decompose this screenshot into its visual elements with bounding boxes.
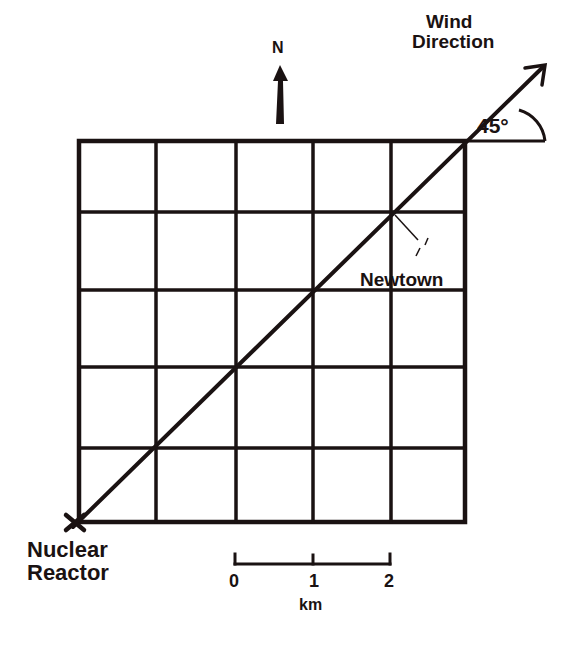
reactor-label-line1: Nuclear	[27, 538, 109, 561]
north-label: N	[272, 40, 284, 57]
wind-direction-arrow	[73, 65, 545, 527]
angle-label: 45°	[477, 115, 509, 137]
scale-unit-label: km	[299, 597, 322, 614]
wind-label-line2: Direction	[412, 32, 494, 52]
reactor-label-line2: Reactor	[27, 561, 109, 584]
nuclear-reactor-label: Nuclear Reactor	[27, 538, 109, 584]
newtown-pointer	[395, 215, 428, 256]
north-arrow-icon	[273, 65, 288, 124]
scale-tick-1: 1	[309, 572, 319, 591]
scale-tick-0: 0	[229, 572, 239, 591]
wind-direction-label: Wind Direction	[412, 12, 494, 52]
scale-bar	[235, 554, 390, 564]
newtown-label: Newtown	[360, 270, 443, 290]
scale-tick-2: 2	[384, 572, 394, 591]
wind-label-line1: Wind	[412, 12, 494, 32]
